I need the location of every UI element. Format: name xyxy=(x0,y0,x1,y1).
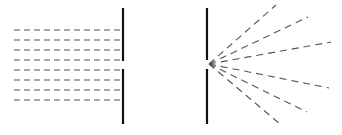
diffracted-ray xyxy=(209,64,329,88)
diffracted-ray xyxy=(209,17,308,64)
diffraction-diagram xyxy=(0,0,342,135)
right-panel-diffracted-rays xyxy=(209,5,331,124)
diffracted-ray xyxy=(209,42,331,64)
diffracted-ray xyxy=(209,64,280,124)
left-panel-incoming-waves xyxy=(14,30,122,100)
diffracted-ray xyxy=(209,5,276,64)
